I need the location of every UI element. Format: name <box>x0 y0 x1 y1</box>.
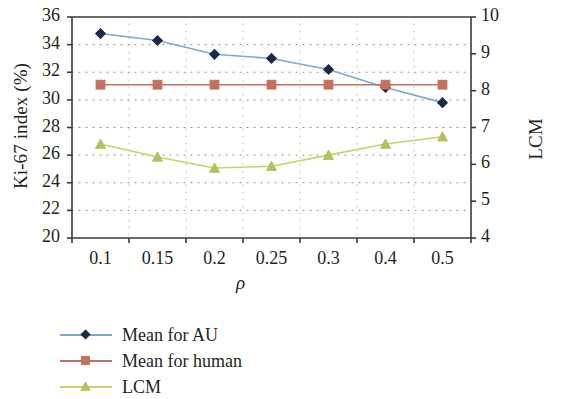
legend-key <box>60 351 112 371</box>
legend-marker-diamond-icon <box>80 329 91 340</box>
legend-key <box>60 377 112 397</box>
gridlines <box>72 17 471 238</box>
axis-frame <box>67 17 476 243</box>
chart-legend: Mean for AUMean for humanLCM <box>60 322 320 399</box>
series-lcm <box>96 132 448 173</box>
legend-marker-square-icon <box>80 355 91 366</box>
legend-item[interactable]: LCM <box>60 374 320 399</box>
legend-key <box>60 325 112 345</box>
legend-label: LCM <box>122 377 161 398</box>
data-series-layer <box>96 29 448 172</box>
legend-marker-triangle-icon <box>80 381 91 392</box>
chart-figure: Ki-67 index (%) LCM ρ 202224262830323436… <box>0 0 564 399</box>
series-mean-for-human <box>96 80 447 89</box>
legend-label: Mean for human <box>122 351 242 372</box>
legend-label: Mean for AU <box>122 325 218 346</box>
legend-item[interactable]: Mean for human <box>60 348 320 374</box>
legend-item[interactable]: Mean for AU <box>60 322 320 348</box>
series-mean-for-au <box>96 29 447 107</box>
